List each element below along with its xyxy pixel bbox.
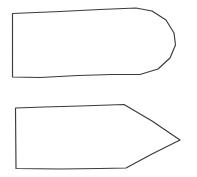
drawing-canvas [0, 0, 197, 177]
canvas-background [0, 0, 197, 177]
figure-svg [0, 0, 197, 177]
